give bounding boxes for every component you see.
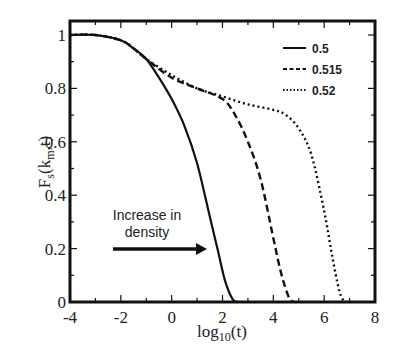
legend-label: 0.5 xyxy=(312,42,329,56)
y-tick-label: 0.8 xyxy=(45,79,66,98)
x-tick-label: 8 xyxy=(371,308,380,327)
x-tick-label: 6 xyxy=(320,308,329,327)
svg-text:Fs(km,t): Fs(km,t) xyxy=(35,136,57,188)
y-axis-label: Fs(km,t) xyxy=(35,136,57,188)
series-line-0-52 xyxy=(70,35,345,302)
relaxation-chart: -4-20246800.20.40.60.81 0.50.5150.52 Inc… xyxy=(0,0,397,361)
annotation-line-2: density xyxy=(125,224,169,240)
arrow-right-icon xyxy=(196,243,207,255)
series-line-0-515 xyxy=(70,35,294,302)
annotation: Increase in density xyxy=(113,207,207,255)
x-tick-label: 2 xyxy=(218,308,227,327)
y-tick-label: 0.2 xyxy=(45,240,66,259)
y-tick-label: 0 xyxy=(58,293,67,312)
annotation-line-1: Increase in xyxy=(113,207,181,223)
x-tick-label: -2 xyxy=(114,308,128,327)
x-tick-label: 4 xyxy=(269,308,278,327)
legend: 0.50.5150.52 xyxy=(283,42,342,98)
y-tick-label: 1 xyxy=(58,26,67,45)
legend-label: 0.515 xyxy=(312,63,342,77)
plot-curves xyxy=(70,35,345,302)
legend-label: 0.52 xyxy=(312,84,336,98)
x-tick-label: 0 xyxy=(167,308,176,327)
series-line-0-5 xyxy=(70,35,238,302)
